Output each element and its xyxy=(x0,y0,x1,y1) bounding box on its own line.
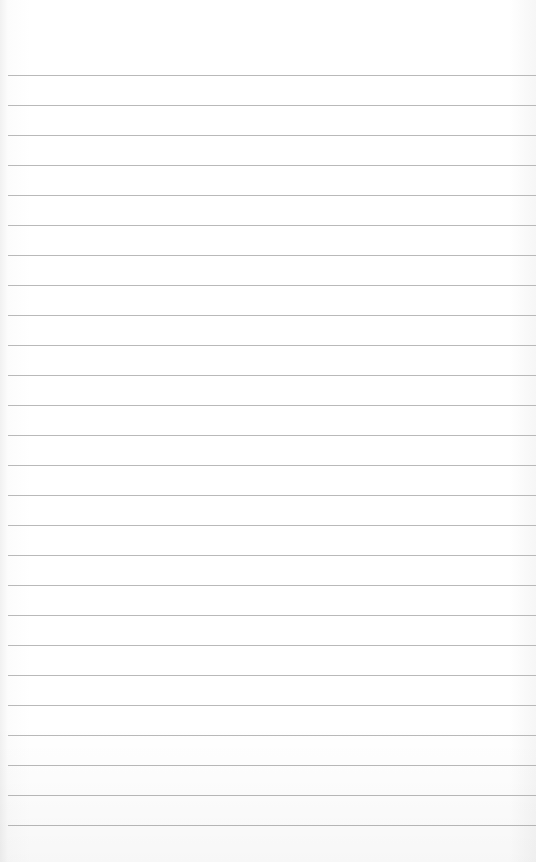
ruled-line xyxy=(8,195,536,196)
ruled-line xyxy=(8,225,536,226)
ruled-line xyxy=(8,525,536,526)
ruled-line xyxy=(8,135,536,136)
ruled-line xyxy=(8,165,536,166)
ruled-line xyxy=(8,615,536,616)
paper-shadow xyxy=(0,722,536,862)
ruled-line xyxy=(8,555,536,556)
ruled-line xyxy=(8,405,536,406)
ruled-line xyxy=(8,435,536,436)
ruled-line xyxy=(8,495,536,496)
ruled-line xyxy=(8,375,536,376)
ruled-line xyxy=(8,645,536,646)
ruled-line xyxy=(8,105,536,106)
ruled-line xyxy=(8,345,536,346)
ruled-line xyxy=(8,585,536,586)
ruled-line xyxy=(8,315,536,316)
ruled-line xyxy=(8,705,536,706)
ruled-line xyxy=(8,285,536,286)
ruled-line xyxy=(8,465,536,466)
ruled-line xyxy=(8,75,536,76)
ruled-line xyxy=(8,255,536,256)
ruled-line xyxy=(8,675,536,676)
